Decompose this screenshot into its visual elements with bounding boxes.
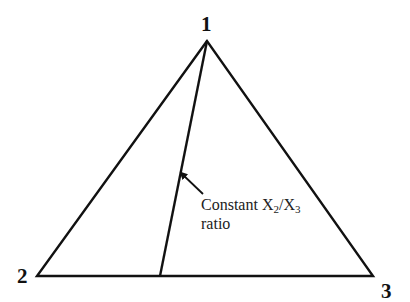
vertex-label-3: 3	[381, 281, 392, 302]
constant-ratio-line	[160, 41, 207, 276]
vertex-label-2: 2	[17, 266, 28, 287]
annotation-text-ratio: ratio	[201, 215, 230, 232]
annotation-subscript-3: 3	[295, 203, 301, 215]
vertex-label-1: 1	[201, 14, 212, 35]
annotation-arrow	[181, 173, 203, 194]
annotation-text-prefix: Constant X	[201, 196, 273, 213]
annotation-slash: /X	[279, 196, 295, 213]
constant-ratio-annotation: Constant X2/X3 ratio	[201, 195, 300, 233]
diagram-graphics	[0, 0, 410, 302]
triangle-outline	[37, 41, 373, 276]
ternary-diagram: 1 2 3 Constant X2/X3 ratio	[0, 0, 410, 302]
